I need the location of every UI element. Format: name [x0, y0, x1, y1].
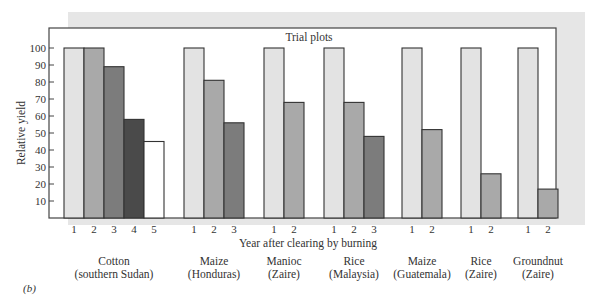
chart-title: Trial plots: [285, 31, 333, 44]
y-tick-label: 60: [35, 110, 47, 122]
crop-label: (Zaire): [465, 268, 497, 281]
crop-label: Groundnut: [513, 255, 564, 267]
bar: [264, 48, 284, 218]
crop-label: Maize: [200, 255, 229, 267]
crop-label: (Zaire): [522, 268, 554, 281]
bar: [104, 67, 124, 218]
bar: [364, 136, 384, 218]
y-tick-label: 90: [35, 59, 47, 71]
x-tick-label: 2: [91, 223, 97, 235]
bar: [402, 48, 422, 218]
y-tick-label: 50: [35, 127, 47, 139]
x-tick-label: 2: [291, 223, 297, 235]
y-tick-label: 20: [35, 178, 47, 190]
crop-label: Maize: [408, 255, 437, 267]
crop-label: Manioc: [266, 255, 301, 267]
x-tick-label: 3: [231, 223, 237, 235]
crop-label: Rice: [470, 255, 491, 267]
x-tick-label: 2: [429, 223, 435, 235]
bar: [344, 102, 364, 218]
x-tick-label: 1: [331, 223, 337, 235]
bar: [184, 48, 204, 218]
y-tick-label: 30: [35, 161, 47, 173]
x-tick-label: 2: [351, 223, 357, 235]
bar: [224, 123, 244, 218]
y-tick-label: 100: [30, 42, 47, 54]
crop-label: (southern Sudan): [75, 268, 154, 281]
panel-label: (b): [23, 282, 36, 295]
bar: [422, 130, 442, 218]
crop-labels: Cotton(southern Sudan)Maize(Honduras)Man…: [75, 255, 564, 281]
bar: [284, 102, 304, 218]
chart: Trial plots 102030405060708090100 Relati…: [0, 0, 592, 297]
y-axis-label: Relative yield: [15, 101, 28, 165]
bar: [538, 189, 558, 218]
x-tick-label: 4: [131, 223, 137, 235]
x-tick-label: 3: [111, 223, 117, 235]
x-tick-label: 1: [525, 223, 531, 235]
x-axis-label: Year after clearing by burning: [239, 237, 377, 250]
x-tick-label: 2: [545, 223, 551, 235]
x-tick-label: 1: [409, 223, 415, 235]
crop-label: Rice: [343, 255, 364, 267]
crop-label: Cotton: [98, 255, 130, 267]
crop-label: (Guatemala): [393, 268, 451, 281]
x-tick-label: 2: [488, 223, 494, 235]
crop-label: (Zaire): [268, 268, 300, 281]
bar: [84, 48, 104, 218]
y-tick-label: 80: [35, 76, 47, 88]
crop-label: (Malaysia): [329, 268, 379, 281]
bar: [144, 142, 164, 219]
x-tick-label: 3: [371, 223, 377, 235]
bar: [324, 48, 344, 218]
bar: [481, 174, 501, 218]
bar: [518, 48, 538, 218]
bar: [461, 48, 481, 218]
bar: [204, 80, 224, 218]
bar: [124, 119, 144, 218]
bar: [64, 48, 84, 218]
x-tick-label: 1: [468, 223, 474, 235]
x-tick-label: 1: [71, 223, 77, 235]
x-tick-label: 1: [191, 223, 197, 235]
y-tick-label: 70: [35, 93, 47, 105]
x-tick-label: 1: [271, 223, 277, 235]
y-tick-label: 10: [35, 195, 47, 207]
x-tick-label: 2: [211, 223, 217, 235]
crop-label: (Honduras): [188, 268, 241, 281]
y-tick-label: 40: [35, 144, 47, 156]
x-tick-label: 5: [151, 223, 157, 235]
